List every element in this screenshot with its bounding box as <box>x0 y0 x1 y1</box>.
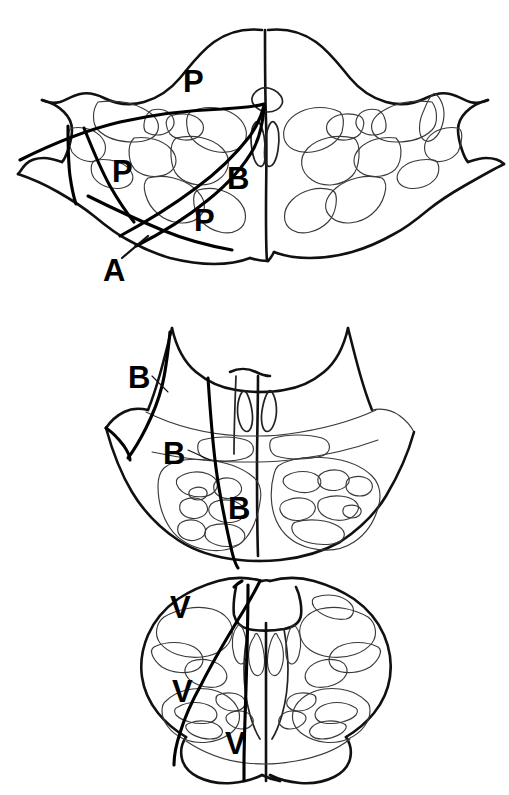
lower-right-interior <box>279 595 381 742</box>
label-upper-p-2: P <box>112 156 133 187</box>
label-middle-b-1: B <box>128 362 150 393</box>
label-lower-v-1: V <box>170 592 191 623</box>
label-lower-v-3: V <box>225 728 246 759</box>
label-upper-b: B <box>227 163 249 194</box>
figure-root: P P B P A <box>0 0 509 795</box>
middle-olive-right <box>271 457 380 550</box>
label-upper-a: A <box>103 255 125 286</box>
label-lower-v-2: V <box>172 676 193 707</box>
upper-right-interior <box>284 94 462 233</box>
upper-aqueduct <box>252 88 283 112</box>
bottom-caption <box>0 786 509 795</box>
upper-section-drawing <box>0 10 509 300</box>
label-upper-p-3: P <box>194 205 215 236</box>
label-upper-p-1: P <box>183 66 204 97</box>
label-middle-b-2: B <box>163 438 185 469</box>
middle-section-drawing <box>90 310 430 575</box>
label-middle-b-3: B <box>228 493 250 524</box>
middle-outer-contour <box>106 328 414 561</box>
lower-section-drawing <box>120 565 410 790</box>
middle-lemniscus-left <box>198 437 254 461</box>
